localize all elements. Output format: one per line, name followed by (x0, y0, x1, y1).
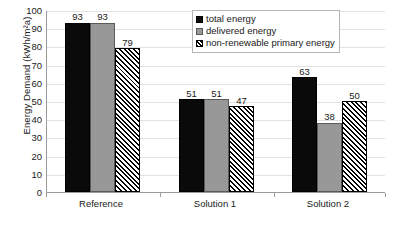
bar-value-label: 93 (97, 12, 108, 22)
bar-solution-1-total: 51 (179, 99, 204, 192)
bar-solution-2-total: 63 (292, 77, 317, 192)
legend-item-nonrenew: non-renewable primary energy (196, 37, 335, 49)
legend-label: total energy (206, 14, 256, 24)
legend-item-total: total energy (196, 13, 335, 25)
bar-value-label: 51 (211, 89, 222, 99)
x-category-label-solution-1: Solution 1 (165, 199, 265, 209)
y-tick-20: 20 (16, 152, 42, 162)
legend-swatch-nonrenew-icon (196, 40, 203, 47)
y-tick-0: 0 (16, 188, 42, 198)
y-tick-10: 10 (16, 170, 42, 180)
bar-value-label: 51 (186, 89, 197, 99)
bar-solution-1-nonrenew: 47 (229, 106, 254, 192)
legend-label: non-renewable primary energy (206, 38, 335, 48)
x-axis-tick-3 (385, 193, 386, 197)
bar-value-label: 79 (122, 38, 133, 48)
y-tick-70: 70 (16, 61, 42, 71)
legend-item-delivered: delivered energy (196, 25, 335, 37)
bar-value-label: 47 (236, 96, 247, 106)
y-tick-90: 90 (16, 24, 42, 34)
bar-value-label: 63 (299, 67, 310, 77)
y-tick-100: 100 (16, 6, 42, 16)
y-tick-30: 30 (16, 133, 42, 143)
bar-value-label: 38 (324, 112, 335, 122)
y-tick-80: 80 (16, 42, 42, 52)
bar-solution-2-nonrenew: 50 (342, 101, 367, 192)
y-axis-tick-labels: 1009080706050403020100 (14, 0, 42, 227)
legend: total energydelivered energynon-renewabl… (192, 10, 340, 53)
bar-chart: Energy Demand (kWh/m²a) 1009080706050403… (0, 0, 394, 227)
bar-reference-nonrenew: 79 (115, 48, 140, 192)
y-tick-50: 50 (16, 97, 42, 107)
legend-swatch-total-icon (196, 16, 203, 23)
x-category-label-solution-2: Solution 2 (278, 199, 378, 209)
bar-reference-total: 93 (65, 23, 90, 192)
bar-value-label: 50 (349, 91, 360, 101)
x-axis-tick-1 (160, 193, 161, 197)
bar-solution-1-delivered: 51 (204, 99, 229, 192)
legend-swatch-delivered-icon (196, 28, 203, 35)
legend-label: delivered energy (206, 26, 276, 36)
bar-value-label: 93 (72, 12, 83, 22)
x-category-label-reference: Reference (51, 199, 151, 209)
y-tick-40: 40 (16, 115, 42, 125)
bar-solution-2-delivered: 38 (317, 123, 342, 192)
x-axis-tick-2 (274, 193, 275, 197)
y-tick-60: 60 (16, 79, 42, 89)
bar-reference-delivered: 93 (90, 23, 115, 192)
x-axis-tick-0 (46, 193, 47, 197)
